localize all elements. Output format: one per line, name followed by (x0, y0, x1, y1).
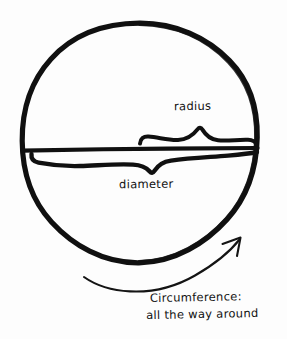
label-radius: radius (174, 99, 212, 115)
label-diameter: diameter (119, 177, 174, 193)
diameter-brace (31, 152, 257, 173)
radius-brace (140, 128, 257, 145)
circle-diagram-figure: radius diameter Circumference: all the w… (0, 0, 287, 339)
label-circumference-line-2: all the way around (146, 305, 259, 323)
circumference-arrow-curve (84, 240, 240, 292)
label-circumference: Circumference: all the way around (150, 289, 259, 323)
label-circumference-line-1: Circumference: (150, 289, 242, 305)
diameter-line (23, 148, 258, 151)
circle-texture-stroke (139, 25, 255, 261)
sketch-canvas (0, 0, 287, 339)
